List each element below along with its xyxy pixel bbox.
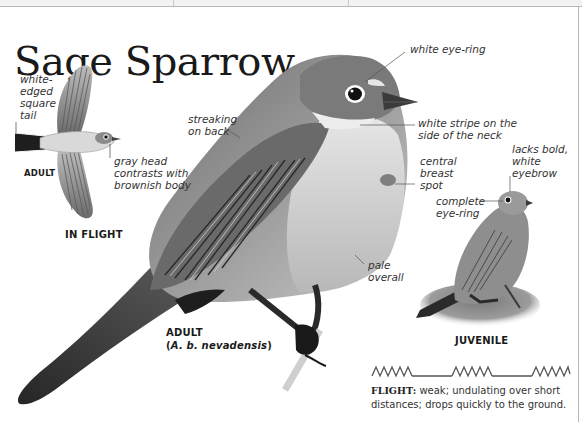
juvenile-head [498, 191, 528, 215]
annotation-gray-head: gray head contrasts with brownish body [114, 155, 191, 191]
flight-heading: FLIGHT: [371, 385, 416, 396]
juvenile-eye [506, 198, 511, 203]
flight-description: FLIGHT: weak; undulating over short dist… [371, 384, 576, 412]
adult-eye [348, 88, 362, 101]
adult-caption: ADULT [166, 327, 203, 339]
subspecies-name: A. b. nevadensis [171, 340, 267, 351]
adult-subspecies: (A. b. nevadensis) [166, 340, 272, 352]
flight-lower-wing [57, 150, 93, 218]
annotation-white-eye-ring: white eye-ring [410, 43, 486, 55]
juvenile-caption: JUVENILE [455, 335, 508, 347]
annotation-pale-overall: pale overall [368, 259, 404, 283]
annotation-central-breast-spot: central breast spot [420, 155, 457, 191]
subspecies-close-paren: ) [267, 340, 272, 351]
annotation-streaking-on-back: streaking on back [188, 113, 237, 137]
in-flight-age-label: ADULT [24, 167, 55, 179]
undulating-flight-pattern-icon [372, 367, 570, 376]
annotation-complete-eye-ring: complete eye-ring [436, 195, 485, 219]
in-flight-caption: IN FLIGHT [65, 229, 123, 241]
illustration-layer [0, 0, 582, 422]
annotation-white-edged-square-tail: white- edged square tail [20, 73, 56, 121]
annotation-lacks-bold-eyebrow: lacks bold, white eyebrow [512, 143, 568, 179]
adult-breast-spot [380, 174, 396, 186]
annotation-white-neck-stripe: white stripe on the side of the neck [418, 117, 517, 141]
